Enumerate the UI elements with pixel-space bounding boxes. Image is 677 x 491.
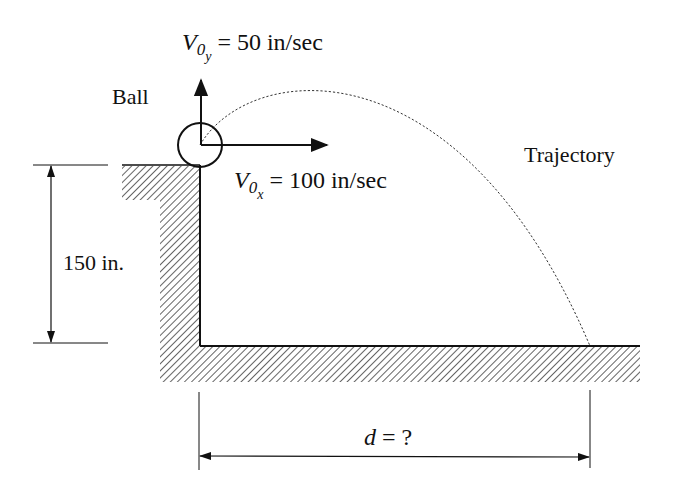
distance-eq: = ? (376, 424, 412, 450)
trajectory-curve (200, 91, 590, 346)
vx-value: = 100 in/sec (263, 167, 387, 193)
distance-arrow (200, 456, 589, 457)
distance-label: d = ? (364, 424, 412, 450)
vy-value: = 50 in/sec (211, 29, 323, 55)
projectile-diagram: Ball V0y = 50 in/sec V0x = 100 in/sec Tr… (0, 0, 677, 491)
ground-structure (122, 165, 640, 382)
velocity-x-label: V0x = 100 in/sec (234, 167, 387, 202)
height-label: 150 in. (63, 250, 124, 275)
velocity-y-label: V0y = 50 in/sec (182, 29, 323, 64)
ball-label: Ball (112, 84, 149, 109)
trajectory-label: Trajectory (524, 142, 615, 167)
